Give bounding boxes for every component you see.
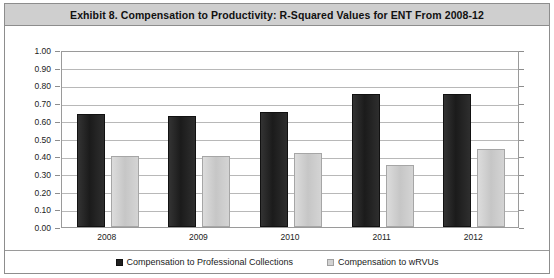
y-axis-tick [55, 157, 60, 158]
y-axis-tick [519, 193, 524, 194]
y-axis-label: 0.00 [15, 223, 51, 233]
exhibit-title-bar: Exhibit 8. Compensation to Productivity:… [5, 4, 549, 26]
y-axis-tick [55, 104, 60, 105]
gridline [62, 87, 518, 88]
legend-label: Compensation to wRVUs [338, 257, 438, 267]
legend-label: Compensation to Professional Collections [127, 257, 294, 267]
y-axis-tick [519, 228, 524, 229]
chart-area: 1.000.900.800.700.600.500.400.300.200.10… [5, 27, 549, 250]
bar-2008-series1 [77, 114, 105, 227]
bar-2008-series2 [111, 156, 139, 227]
x-axis-label: 2008 [67, 232, 147, 242]
y-axis-tick [519, 51, 524, 52]
y-axis-label: 0.20 [15, 188, 51, 198]
exhibit-title: Exhibit 8. Compensation to Productivity:… [70, 9, 484, 21]
y-axis-tick [55, 122, 60, 123]
y-axis-tick [55, 228, 60, 229]
y-axis-label: 0.60 [15, 117, 51, 127]
y-axis-tick [519, 69, 524, 70]
bar-2009-series2 [202, 156, 230, 227]
y-axis-tick [519, 86, 524, 87]
light-square-swatch [327, 259, 334, 266]
plot-area [61, 51, 519, 228]
y-axis-tick [55, 175, 60, 176]
y-axis-label: 0.70 [15, 99, 51, 109]
y-axis-tick [55, 51, 60, 52]
y-axis-label: 0.10 [15, 205, 51, 215]
y-axis-tick [55, 86, 60, 87]
y-axis-tick [55, 69, 60, 70]
y-axis-tick [519, 104, 524, 105]
y-axis-tick [55, 193, 60, 194]
y-axis-tick [519, 210, 524, 211]
x-axis-label: 2011 [342, 232, 422, 242]
bar-2010-series2 [294, 153, 322, 227]
bar-2011-series1 [352, 94, 380, 227]
legend-entry-2: Compensation to wRVUs [327, 257, 438, 267]
y-axis-tick [519, 140, 524, 141]
y-axis-tick [55, 210, 60, 211]
y-axis-tick [519, 175, 524, 176]
y-axis-label: 0.90 [15, 64, 51, 74]
x-axis-label: 2010 [250, 232, 330, 242]
y-axis-label: 0.40 [15, 152, 51, 162]
y-axis-label: 0.50 [15, 135, 51, 145]
chart-legend: Compensation to Professional Collections… [5, 251, 549, 273]
y-axis-tick [519, 122, 524, 123]
y-axis-label: 1.00 [15, 46, 51, 56]
bar-2012-series1 [443, 94, 471, 227]
dark-square-swatch [116, 259, 123, 266]
x-axis-label: 2009 [158, 232, 238, 242]
gridline [62, 69, 518, 70]
bar-2011-series2 [386, 165, 414, 227]
bar-2010-series1 [260, 112, 288, 227]
y-axis-tick [519, 157, 524, 158]
y-axis-label: 0.30 [15, 170, 51, 180]
x-axis-label: 2012 [433, 232, 513, 242]
legend-entry-1: Compensation to Professional Collections [116, 257, 294, 267]
bar-2012-series2 [477, 149, 505, 227]
exhibit-frame: Exhibit 8. Compensation to Productivity:… [4, 3, 550, 274]
y-axis-tick [55, 140, 60, 141]
y-axis-label: 0.80 [15, 81, 51, 91]
bar-2009-series1 [168, 116, 196, 228]
